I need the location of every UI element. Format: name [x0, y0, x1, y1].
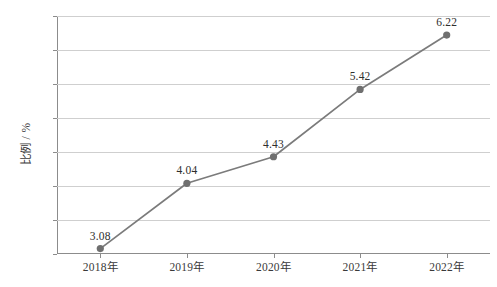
y-tick-mark — [53, 254, 57, 255]
data-point-label: 5.42 — [350, 70, 371, 82]
data-point-marker — [270, 153, 277, 160]
data-point-marker — [443, 31, 450, 38]
data-point-marker — [183, 180, 190, 187]
y-axis-title: 比例 / % — [17, 122, 33, 165]
x-tick-label: 2022年 — [429, 258, 464, 274]
plot-area: 3.084.044.435.426.22 — [57, 16, 490, 254]
x-tick-label: 2019年 — [169, 258, 204, 274]
data-point-label: 4.04 — [176, 164, 197, 176]
data-point-label: 4.43 — [263, 138, 284, 150]
x-tick-label: 2021年 — [343, 258, 378, 274]
data-point-label: 3.08 — [90, 230, 111, 242]
data-point-label: 6.22 — [436, 16, 457, 28]
line-chart: 比例 / % 3.084.044.435.426.22 3.03.54.04.5… — [0, 0, 497, 287]
data-point-marker — [357, 86, 364, 93]
data-point-marker — [97, 245, 104, 252]
x-tick-label: 2020年 — [256, 258, 291, 274]
x-tick-label: 2018年 — [83, 258, 118, 274]
series-graphics — [57, 16, 490, 254]
